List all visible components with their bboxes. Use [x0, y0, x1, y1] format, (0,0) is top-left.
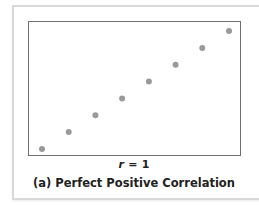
data-point: [146, 79, 152, 85]
data-point: [226, 28, 232, 34]
r-symbol: r: [119, 158, 125, 171]
data-point: [173, 62, 179, 68]
chart-caption: (a) Perfect Positive Correlation: [0, 176, 259, 190]
equals-sign: =: [128, 158, 137, 171]
scatter-plot-area: [28, 21, 241, 156]
data-point: [92, 112, 98, 118]
r-value: 1: [142, 158, 150, 171]
correlation-coefficient-label: r = 1: [0, 158, 259, 171]
data-point: [39, 146, 45, 152]
data-point: [66, 129, 72, 135]
scatter-points: [29, 22, 242, 157]
data-point: [119, 95, 125, 101]
data-point: [199, 45, 205, 51]
